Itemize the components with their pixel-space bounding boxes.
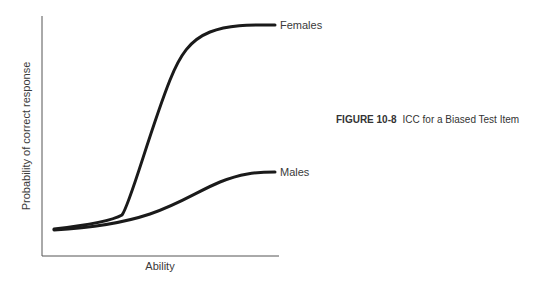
males-curve [54,172,275,230]
x-axis-label: Ability [130,260,190,272]
y-axis-label: Probability of correct response [20,46,32,226]
figure-number: FIGURE 10-8 [336,114,397,125]
figure-title: ICC for a Biased Test Item [403,114,520,125]
icc-chart [0,0,551,293]
figure-caption: FIGURE 10-8ICC for a Biased Test Item [336,113,536,126]
females-label: Females [280,19,322,31]
females-curve [54,25,275,229]
males-label: Males [280,166,309,178]
